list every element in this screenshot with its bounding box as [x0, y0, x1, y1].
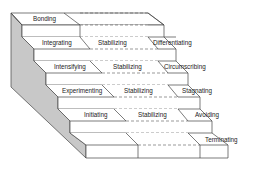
stage-label-terminating: Terminating	[205, 136, 238, 144]
step-integrating: Integrating Stabilizing Differentiating	[22, 37, 192, 61]
stage-label-stabilizing-4: Stabilizing	[138, 111, 167, 119]
stage-label-differentiating: Differentiating	[153, 39, 192, 47]
stage-label-intensifying: Intensifying	[54, 63, 86, 71]
stage-label-integrating: Integrating	[42, 39, 72, 47]
step-terminating: Terminating	[70, 133, 238, 158]
stage-label-bonding: Bonding	[33, 15, 57, 23]
relationship-staircase-diagram: Bonding Integrating Stabilizing Differen…	[0, 0, 270, 172]
step-bonding: Bonding	[11, 13, 164, 37]
stage-label-experimenting: Experimenting	[62, 87, 103, 95]
stage-label-stabilizing-3: Stabilizing	[124, 87, 153, 95]
stage-label-avoiding: Avoiding	[195, 111, 220, 119]
step-intensifying: Intensifying Stabilizing Circumscribing	[34, 61, 206, 85]
stage-label-initiating: Initiating	[84, 111, 108, 119]
stage-label-stagnating: Stagnating	[182, 87, 213, 95]
stage-label-circumscribing: Circumscribing	[164, 63, 206, 71]
step-initiating: Initiating Stabilizing Avoiding	[58, 109, 220, 133]
stage-label-stabilizing-1: Stabilizing	[98, 39, 127, 47]
step-experimenting: Experimenting Stabilizing Stagnating	[46, 85, 213, 109]
stage-label-stabilizing-2: Stabilizing	[113, 63, 142, 71]
